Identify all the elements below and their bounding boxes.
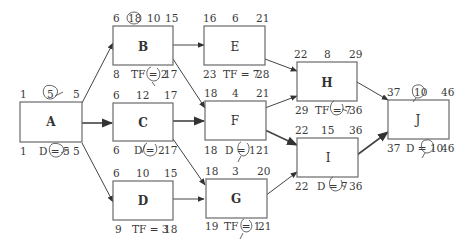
node-J-ls: 37 <box>387 142 400 154</box>
edge-C-G <box>173 139 205 185</box>
node-F-es: 18 <box>204 87 217 99</box>
node-C-es: 6 <box>113 89 120 101</box>
node-J-duration: 10 <box>414 86 427 98</box>
node-G-label: G <box>231 192 241 206</box>
node-J-label: J <box>414 113 421 127</box>
node-I-label: I <box>326 151 331 165</box>
node-B: B 6 18 10 15 8 TF = 2 17 <box>113 12 178 86</box>
node-F-duration: 4 <box>232 87 239 99</box>
node-C-label: C <box>138 116 148 130</box>
node-C-ls: 6 <box>113 144 120 156</box>
node-E-ef: 21 <box>256 12 269 24</box>
edge-F-I <box>265 130 297 145</box>
node-F: F 18 4 21 18 D = 1 21 <box>204 87 269 162</box>
node-C-lf: 17 <box>164 144 177 156</box>
node-B-bottom: TF = 2 <box>131 68 167 80</box>
node-G-lf: 21 <box>258 220 271 232</box>
node-I: I 22 15 36 22 D = 7 36 <box>295 124 363 192</box>
node-H-es: 22 <box>294 48 307 60</box>
node-D-ef: 15 <box>164 167 177 179</box>
edge-H-J <box>357 82 388 100</box>
node-H-ls: 29 <box>295 104 308 116</box>
node-B-duration-corrected: 10 <box>147 12 160 24</box>
node-F-label: F <box>231 114 239 128</box>
node-B-lf: 17 <box>164 68 177 80</box>
node-E: E 16 6 21 23 TF = 7 28 <box>203 12 269 80</box>
node-I-ef: 36 <box>349 124 363 136</box>
node-B-label: B <box>138 40 148 54</box>
node-E-bottom: TF = 7 <box>223 68 259 80</box>
node-F-ls: 18 <box>204 144 217 156</box>
node-H-ef: 29 <box>349 48 362 60</box>
node-I-lf: 36 <box>349 180 363 192</box>
node-A-es: 1 <box>20 88 27 100</box>
node-E-duration: 6 <box>232 12 239 24</box>
node-C: C 6 12 17 6 D = 2 17 <box>113 89 177 156</box>
node-B-ef: 15 <box>165 12 178 24</box>
node-A: A 1 5 5 1 D = 5 5 <box>20 85 82 157</box>
node-A-label: A <box>45 115 56 129</box>
node-D-label: D <box>138 194 148 208</box>
node-G-es: 18 <box>205 165 218 177</box>
node-C-bottom: D = 2 <box>134 144 165 156</box>
node-G: G 18 3 20 19 TF = 1 21 <box>205 165 271 239</box>
edge-A-B <box>82 43 113 103</box>
node-D-duration: 10 <box>136 167 149 179</box>
node-C-duration: 12 <box>136 89 149 101</box>
node-E-es: 16 <box>203 12 217 24</box>
edge-E-H <box>265 59 297 71</box>
node-I-es: 22 <box>295 124 308 136</box>
node-D: D 6 10 15 9 TF = 3 18 <box>113 167 177 235</box>
node-D-es: 6 <box>113 167 120 179</box>
node-F-lf: 21 <box>256 144 269 156</box>
node-D-lf: 18 <box>164 223 177 235</box>
node-B-ls: 8 <box>113 68 120 80</box>
node-B-es: 6 <box>113 12 120 24</box>
node-A-ef: 5 <box>73 88 80 100</box>
node-A-lf: 5 <box>73 145 80 157</box>
node-D-bottom: TF = 3 <box>132 223 168 235</box>
network-diagram: A 1 5 5 1 D = 5 5 B 6 18 10 15 8 TF = 2 … <box>0 0 470 252</box>
edge-B-F <box>173 59 205 108</box>
node-E-lf: 28 <box>256 68 269 80</box>
node-D-ls: 9 <box>115 223 122 235</box>
node-J-ef: 46 <box>441 86 455 98</box>
node-G-ef: 20 <box>257 165 270 177</box>
node-E-label: E <box>231 40 240 54</box>
node-I-duration: 15 <box>321 124 334 136</box>
edge-F-H <box>265 96 297 108</box>
node-H-duration: 8 <box>324 48 331 60</box>
node-F-ef: 21 <box>256 87 269 99</box>
node-J-lf: 46 <box>441 142 455 154</box>
edge-A-D <box>82 143 113 202</box>
node-H: H 22 8 29 29 TF = 7 36 <box>294 48 363 116</box>
node-J: J 37 10 46 37 D = 10 46 <box>387 85 455 158</box>
node-E-ls: 23 <box>203 68 216 80</box>
node-H-label: H <box>321 76 332 90</box>
node-I-ls: 22 <box>295 180 308 192</box>
node-H-lf: 36 <box>349 104 363 116</box>
node-C-ef: 17 <box>164 89 177 101</box>
node-J-es: 37 <box>387 86 400 98</box>
node-G-duration: 3 <box>232 165 239 177</box>
node-A-ls: 1 <box>20 145 27 157</box>
node-G-ls: 19 <box>205 220 218 232</box>
